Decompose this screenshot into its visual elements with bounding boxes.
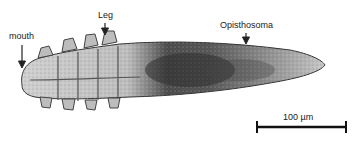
- opisthosoma-label: Opisthosoma: [220, 20, 273, 30]
- scale-bar: [257, 121, 346, 133]
- mouth-label: mouth: [9, 31, 34, 41]
- mouth-arrow-icon: [19, 45, 26, 68]
- leg-label: Leg: [98, 10, 113, 20]
- opisthosoma-arrow-icon: [243, 33, 250, 44]
- scale-bar-label: 100 µm: [283, 112, 313, 122]
